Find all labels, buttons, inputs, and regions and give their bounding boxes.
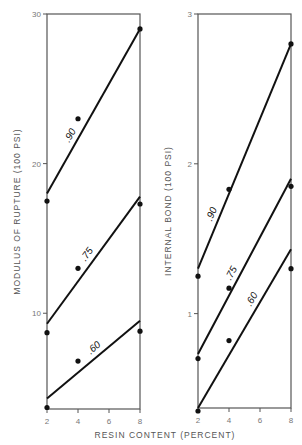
- y-tick-label: 10: [32, 309, 41, 318]
- data-point: [226, 286, 231, 291]
- series-label: .90: [203, 205, 219, 222]
- data-point: [195, 274, 200, 279]
- x-tick-label: 4: [227, 416, 232, 425]
- y-tick-label: 30: [32, 10, 41, 19]
- data-point: [75, 266, 80, 271]
- y-tick-label: 3: [188, 10, 193, 19]
- data-point: [137, 26, 142, 31]
- y-axis-label: MODULUS OF RUPTURE (100 PSI): [12, 128, 22, 294]
- data-point: [44, 198, 49, 203]
- data-point: [226, 338, 231, 343]
- data-point: [137, 329, 142, 334]
- y-tick-label: 20: [32, 160, 41, 169]
- left-chart-panel: 1020302468MODULUS OF RUPTURE (100 PSI).9…: [12, 10, 143, 426]
- data-point: [44, 330, 49, 335]
- data-point: [288, 184, 293, 189]
- x-axis-label: RESIN CONTENT (PERCENT): [95, 430, 236, 440]
- x-tick-label: 8: [138, 417, 143, 426]
- data-point: [44, 405, 49, 410]
- data-point: [195, 408, 200, 413]
- data-point: [137, 201, 142, 206]
- y-axis-label: INTERNAL BOND (100 PSI): [163, 146, 173, 276]
- right-chart-panel: 1232468INTERNAL BOND (100 PSI).90.75.60: [163, 10, 294, 425]
- x-tick-label: 4: [76, 417, 81, 426]
- x-tick-label: 2: [196, 416, 201, 425]
- data-point: [226, 187, 231, 192]
- data-point: [288, 266, 293, 271]
- resin-content-charts: 1020302468MODULUS OF RUPTURE (100 PSI).9…: [0, 0, 302, 445]
- x-tick-label: 6: [258, 416, 263, 425]
- x-tick-label: 2: [45, 417, 50, 426]
- data-point: [195, 356, 200, 361]
- x-tick-label: 6: [107, 417, 112, 426]
- x-tick-label: 8: [289, 416, 294, 425]
- data-point: [288, 41, 293, 46]
- data-point: [75, 116, 80, 121]
- y-tick-label: 1: [188, 310, 193, 319]
- data-point: [75, 359, 80, 364]
- y-tick-label: 2: [188, 160, 193, 169]
